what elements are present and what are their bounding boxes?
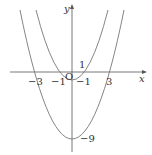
tick-label-neg3: −3 (28, 76, 43, 87)
x-axis-label: x (139, 73, 145, 84)
tick-label-neg9: −9 (80, 133, 95, 144)
tick-label-neg1-y: −1 (76, 76, 91, 87)
y-axis-label: y (63, 3, 70, 14)
tick-label-3: 3 (106, 76, 112, 87)
origin-label: O (65, 71, 73, 82)
tick-label-1: 1 (79, 59, 85, 70)
y-axis-arrow-icon (70, 4, 74, 9)
tick-label-neg1-x: −1 (51, 76, 66, 87)
graph: y x O −3 −1 −1 1 3 −9 (0, 0, 152, 155)
